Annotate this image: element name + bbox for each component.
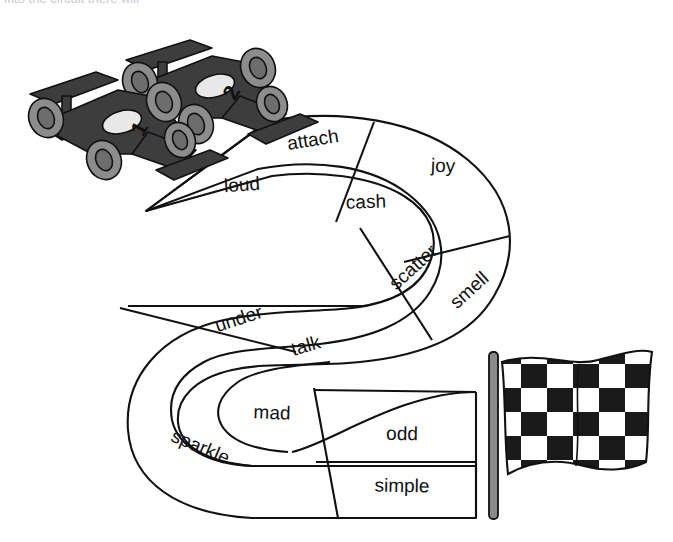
flag-pole [489, 352, 498, 519]
checkered-flag-layer [0, 0, 673, 542]
worksheet-canvas: into the circuit there will [0, 0, 673, 542]
